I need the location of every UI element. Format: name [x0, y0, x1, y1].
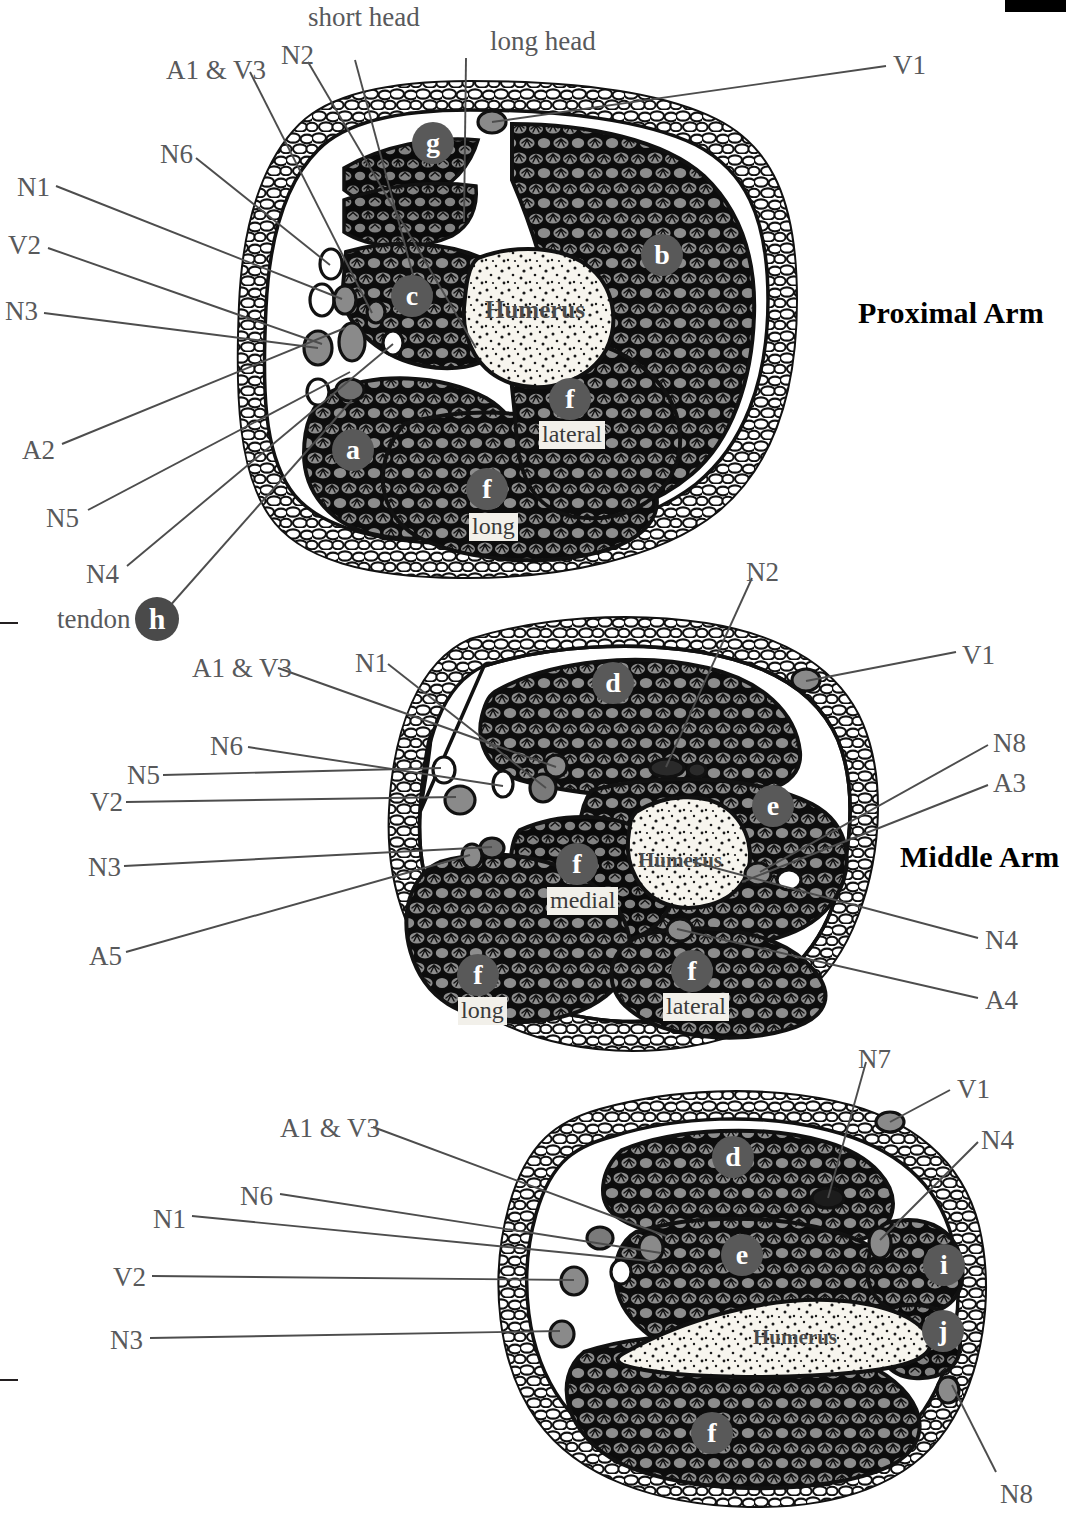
- leader-label-distal-n7: N7: [858, 1046, 891, 1073]
- key-circle-middle-d-0: d: [592, 662, 634, 704]
- leader-label-middle-a3: A3: [993, 770, 1026, 797]
- leader-label-proximal-v1: V1: [893, 52, 926, 79]
- leader-label-proximal-n1: N1: [17, 174, 50, 201]
- leader-label-middle-a4: A4: [985, 987, 1018, 1014]
- leader-line-m-v1: [806, 652, 956, 681]
- leader-label-proximal-n5: N5: [46, 505, 79, 532]
- leader-label-middle-a1-v3: A1 & V3: [192, 655, 292, 682]
- section-title-proximal: Proximal Arm: [858, 296, 1044, 330]
- bone-label-humerus-middle: Humerus: [638, 848, 722, 873]
- muscle-head-label-middle-long: long: [458, 997, 507, 1025]
- key-circle-proximal-h-6: h: [135, 597, 179, 641]
- leader-label-distal-n4: N4: [981, 1127, 1014, 1154]
- key-circle-proximal-f-5: f: [466, 468, 508, 510]
- key-circle-middle-e-1: e: [752, 785, 794, 827]
- leader-label-proximal-tendon: tendon: [57, 606, 131, 633]
- leader-label-distal-n1: N1: [153, 1206, 186, 1233]
- leader-label-proximal-v2: V2: [8, 232, 41, 259]
- key-circle-middle-f-4: f: [671, 950, 713, 992]
- key-circle-distal-i-2: i: [923, 1244, 965, 1286]
- muscle-head-label-middle-medial: medial: [547, 887, 618, 915]
- bone-label-humerus-distal: Humerus: [753, 1325, 837, 1350]
- leader-label-proximal-n2: N2: [281, 42, 314, 69]
- key-circle-distal-j-3: j: [922, 1310, 964, 1352]
- bone-label-humerus-proximal: Humerus: [485, 296, 585, 324]
- leader-label-proximal-n3: N3: [5, 298, 38, 325]
- leader-label-middle-n3: N3: [88, 854, 121, 881]
- leader-line-d-v1: [890, 1090, 950, 1122]
- leader-label-distal-a1-v3: A1 & V3: [280, 1115, 380, 1142]
- leader-label-proximal-a1-v3: A1 & V3: [166, 57, 266, 84]
- leader-label-proximal-n6: N6: [160, 141, 193, 168]
- key-circle-middle-f-3: f: [457, 954, 499, 996]
- muscle-head-label-proximal-long: long: [469, 513, 518, 541]
- cross-section-proximal: [239, 82, 796, 577]
- page-edge-tab: [1005, 0, 1066, 12]
- muscle-head-label-middle-lateral: lateral: [663, 993, 729, 1021]
- leader-label-middle-n2: N2: [746, 559, 779, 586]
- leader-label-distal-v1: V1: [957, 1076, 990, 1103]
- leader-label-middle-a5: A5: [89, 943, 122, 970]
- leader-label-middle-n1: N1: [355, 650, 388, 677]
- leader-label-proximal-long-head: long head: [490, 28, 596, 55]
- key-circle-proximal-g-0: g: [412, 122, 454, 164]
- leader-label-proximal-short-head: short head: [308, 4, 420, 31]
- muscle-head-label-proximal-lateral: lateral: [539, 421, 605, 449]
- leader-label-middle-n6: N6: [210, 733, 243, 760]
- side-bracket: [0, 622, 18, 1381]
- key-circle-middle-f-2: f: [556, 843, 598, 885]
- key-circle-proximal-c-2: c: [391, 275, 433, 317]
- key-circle-proximal-f-3: f: [549, 378, 591, 420]
- leader-label-distal-n8: N8: [1000, 1481, 1033, 1508]
- leader-label-middle-n4: N4: [985, 927, 1018, 954]
- leader-label-proximal-a2: A2: [22, 437, 55, 464]
- key-circle-distal-d-0: d: [712, 1136, 754, 1178]
- leader-label-middle-v1: V1: [962, 642, 995, 669]
- leader-line-d-n8: [952, 1385, 996, 1472]
- leader-label-middle-v2: V2: [90, 789, 123, 816]
- leader-label-distal-n6: N6: [240, 1183, 273, 1210]
- key-circle-distal-e-1: e: [721, 1234, 763, 1276]
- section-title-middle: Middle Arm: [900, 840, 1060, 874]
- leader-label-middle-n8: N8: [993, 730, 1026, 757]
- key-circle-proximal-b-1: b: [641, 234, 683, 276]
- key-circle-proximal-a-4: a: [332, 429, 374, 471]
- leader-label-distal-v2: V2: [113, 1264, 146, 1291]
- leader-label-proximal-n4: N4: [86, 561, 119, 588]
- leader-label-middle-n5: N5: [127, 762, 160, 789]
- leader-line-d-n3: [150, 1331, 560, 1338]
- leader-label-distal-n3: N3: [110, 1327, 143, 1354]
- key-circle-distal-f-4: f: [691, 1412, 733, 1454]
- figure-root: short headlong headN2A1 & V3V1N6N1V2N3A2…: [0, 0, 1066, 1523]
